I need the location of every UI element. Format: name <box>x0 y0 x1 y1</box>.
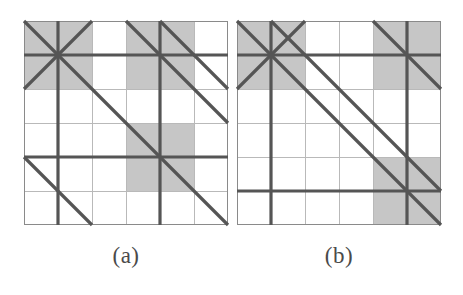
shaded-cell <box>373 55 407 89</box>
shaded-cell <box>160 123 194 157</box>
panel-b-grid-diagram <box>234 18 444 228</box>
panel-b <box>234 18 444 228</box>
panel-a-grid-diagram <box>21 18 231 228</box>
panel-a <box>21 18 231 228</box>
panel-b-caption: (b) <box>287 243 391 269</box>
shaded-cell <box>126 55 160 89</box>
shaded-cell <box>373 191 407 225</box>
shaded-cell <box>126 157 160 191</box>
panel-a-caption: (a) <box>74 243 178 269</box>
figure-container: (a) (b) <box>0 0 463 295</box>
shaded-cell <box>407 21 441 55</box>
